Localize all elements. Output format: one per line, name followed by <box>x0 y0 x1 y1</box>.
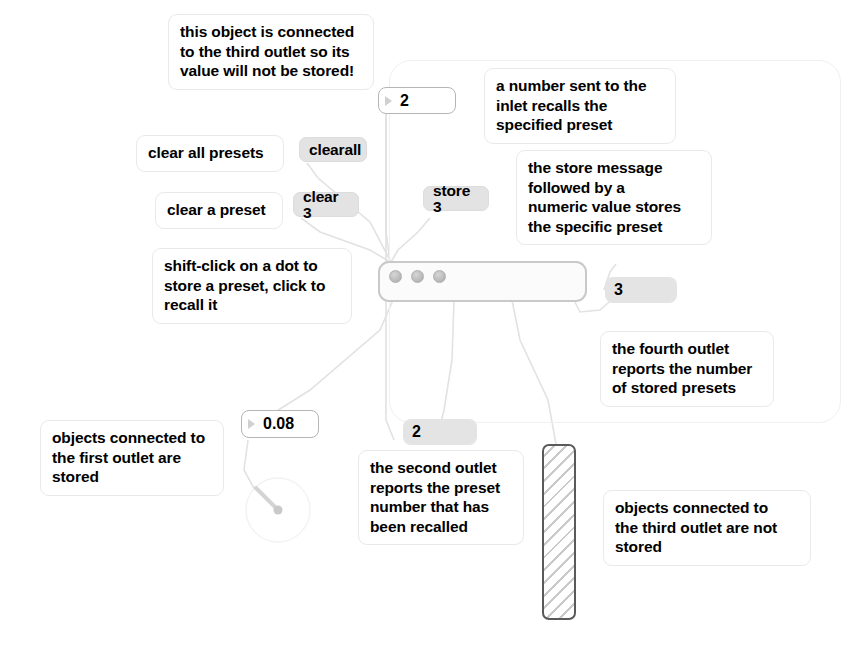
number-box-preset-recall[interactable]: 2 <box>378 87 456 114</box>
comment-store-message: the store message followed by a numeric … <box>516 150 712 245</box>
message-clearall[interactable]: clearall <box>299 137 367 162</box>
number-display-stored-count-value: 3 <box>614 281 623 299</box>
comment-second-outlet: the second outlet reports the preset num… <box>358 450 524 545</box>
number-box-float-flag-icon <box>248 419 255 429</box>
preset-dot-2[interactable] <box>411 270 424 283</box>
dial-knob[interactable] <box>240 470 316 546</box>
number-display-recalled-preset-value: 2 <box>412 423 421 441</box>
comment-third-outlet-not-stored-top: this object is connected to the third ou… <box>168 14 374 90</box>
vertical-slider[interactable] <box>542 444 576 620</box>
number-box-float[interactable]: 0.08 <box>241 410 319 438</box>
number-box-preset-recall-value: 2 <box>400 92 409 110</box>
message-store-3-label: store 3 <box>433 183 478 214</box>
comment-fourth-outlet: the fourth outlet reports the number of … <box>600 331 774 407</box>
message-clear-3-label: clear 3 <box>303 189 348 220</box>
number-box-float-value: 0.08 <box>263 415 294 433</box>
number-display-recalled-preset[interactable]: 2 <box>403 419 477 445</box>
message-clearall-label: clearall <box>309 142 361 158</box>
comment-clear-a-preset: clear a preset <box>155 192 283 229</box>
message-store-3[interactable]: store 3 <box>423 186 489 211</box>
preset-dot-row <box>389 270 446 283</box>
message-clear-3[interactable]: clear 3 <box>293 192 359 217</box>
preset-dot-3[interactable] <box>433 270 446 283</box>
comment-shift-click: shift-click on a dot to store a preset, … <box>152 248 352 324</box>
comment-first-outlet-stored: objects connected to the first outlet ar… <box>40 420 224 496</box>
comment-clear-all-presets: clear all presets <box>136 135 284 172</box>
comment-third-outlet-not-stored: objects connected to the third outlet ar… <box>603 490 811 566</box>
preset-dot-1[interactable] <box>389 270 402 283</box>
number-box-flag-icon <box>385 96 392 106</box>
preset-object[interactable] <box>378 261 587 302</box>
dial-hub <box>274 506 283 515</box>
number-display-stored-count[interactable]: 3 <box>605 277 677 303</box>
comment-number-inlet-recalls: a number sent to the inlet recalls the s… <box>484 68 676 144</box>
patch-canvas: this object is connected to the third ou… <box>0 0 856 653</box>
